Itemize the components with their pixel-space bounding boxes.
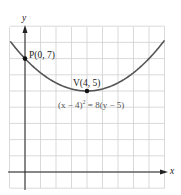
x-axis-label: x (170, 167, 174, 177)
point-p-label: P(0, 7) (29, 51, 55, 61)
point-v-label: V(4, 5) (73, 79, 100, 89)
equation-prefix: (x − 4) (58, 100, 83, 110)
equation-label: (x − 4)2 = 8(y − 5) (58, 99, 124, 110)
y-axis-label: y (22, 14, 26, 24)
equation-suffix: = 8(y − 5) (86, 100, 125, 110)
parabola-chart (0, 0, 181, 195)
